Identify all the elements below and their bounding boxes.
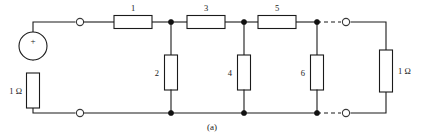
wire-top-to-load: [351, 22, 386, 50]
resistor-4: 4: [228, 22, 251, 113]
source-resistor-label: 1 Ω: [9, 86, 22, 96]
load-resistor: 1 Ω: [380, 50, 411, 92]
resistor-1-body: [114, 16, 152, 29]
circuit-schematic-canvas: + 1 Ω 1: [0, 0, 423, 135]
resistor-3-label: 3: [204, 3, 208, 13]
resistor-3: 3: [187, 3, 225, 29]
resistor-5: 5: [258, 3, 296, 29]
resistor-6-body: [311, 55, 324, 90]
source-branch: + 1 Ω: [9, 22, 75, 113]
resistor-5-label: 5: [275, 3, 279, 13]
terminal-bottom-right[interactable]: [342, 109, 349, 116]
resistor-6-label: 6: [301, 68, 305, 78]
node-dot-b-top: [241, 19, 246, 24]
node-dot-a-top: [168, 19, 173, 24]
node-dot-c-bottom: [314, 110, 319, 115]
wire-bottom-to-load: [351, 92, 386, 113]
bottom-rail: [84, 92, 386, 113]
resistor-6: 6: [301, 22, 324, 113]
resistor-2-body: [165, 55, 178, 90]
figure-caption: (a): [207, 122, 217, 132]
circuit-diagram-figure: + 1 Ω 1: [0, 0, 423, 135]
load-resistor-label: 1 Ω: [398, 66, 411, 76]
source-series-resistor-body: [27, 73, 40, 108]
load-resistor-body: [380, 50, 393, 92]
resistor-3-body: [187, 16, 225, 29]
resistor-4-label: 4: [228, 68, 233, 78]
node-dot-c-top: [314, 19, 319, 24]
resistor-1-label: 1: [131, 3, 135, 13]
terminal-top-right[interactable]: [342, 18, 349, 25]
resistor-5-body: [258, 16, 296, 29]
resistor-1: 1: [114, 3, 152, 29]
terminal-bottom-left[interactable]: [76, 109, 83, 116]
source-polarity-label: +: [30, 36, 35, 46]
resistor-2: 2: [155, 22, 178, 113]
resistor-4-body: [238, 55, 251, 90]
node-dot-b-bottom: [241, 110, 246, 115]
node-dot-a-bottom: [168, 110, 173, 115]
terminal-top-left[interactable]: [76, 18, 83, 25]
resistor-2-label: 2: [155, 68, 159, 78]
